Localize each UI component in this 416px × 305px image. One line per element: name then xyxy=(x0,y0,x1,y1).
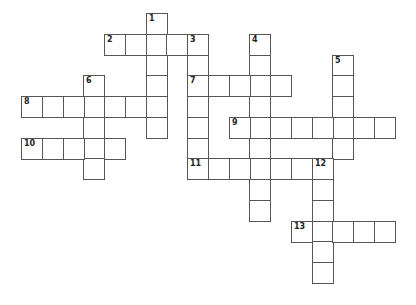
crossword-cell[interactable] xyxy=(312,200,334,222)
crossword-cell[interactable] xyxy=(249,158,271,180)
crossword-cell[interactable] xyxy=(353,117,375,139)
clue-number: 2 xyxy=(107,36,113,44)
crossword-cell[interactable] xyxy=(374,221,396,243)
crossword-cell[interactable]: 9 xyxy=(229,117,251,139)
crossword-cell[interactable] xyxy=(270,158,292,180)
crossword-cell[interactable] xyxy=(270,117,292,139)
crossword-cell[interactable] xyxy=(353,221,375,243)
crossword-cell[interactable] xyxy=(332,117,354,139)
crossword-cell[interactable]: 10 xyxy=(21,138,43,160)
crossword-cell[interactable] xyxy=(332,221,354,243)
crossword-cell[interactable] xyxy=(291,158,313,180)
crossword-cell[interactable] xyxy=(83,117,105,139)
clue-number: 8 xyxy=(24,98,30,106)
crossword-cell[interactable] xyxy=(229,75,251,97)
crossword-cell[interactable]: 1 xyxy=(146,13,168,35)
crossword-cell[interactable] xyxy=(291,117,313,139)
clue-number: 7 xyxy=(190,77,196,85)
crossword-cell[interactable] xyxy=(63,96,85,118)
crossword-cell[interactable] xyxy=(249,179,271,201)
crossword-cell[interactable] xyxy=(312,262,334,284)
crossword-cell[interactable] xyxy=(187,96,209,118)
crossword-cell[interactable] xyxy=(187,117,209,139)
crossword-cell[interactable] xyxy=(146,34,168,56)
crossword-cell[interactable] xyxy=(63,138,85,160)
crossword-cell[interactable] xyxy=(249,117,271,139)
crossword-cell[interactable] xyxy=(332,138,354,160)
crossword-cell[interactable] xyxy=(229,158,251,180)
crossword-cell[interactable]: 6 xyxy=(83,75,105,97)
crossword-cell[interactable] xyxy=(249,75,271,97)
clue-number: 13 xyxy=(294,223,305,231)
crossword-cell[interactable] xyxy=(146,55,168,77)
clue-number: 10 xyxy=(24,140,35,148)
crossword-cell[interactable] xyxy=(312,179,334,201)
clue-number: 11 xyxy=(190,160,201,168)
clue-number: 4 xyxy=(252,36,258,44)
crossword-cell[interactable] xyxy=(270,75,292,97)
crossword-cell[interactable] xyxy=(332,75,354,97)
crossword-cell[interactable] xyxy=(83,158,105,180)
crossword-cell[interactable] xyxy=(249,55,271,77)
crossword-cell[interactable]: 5 xyxy=(332,55,354,77)
crossword-cell[interactable]: 2 xyxy=(104,34,126,56)
crossword-cell[interactable] xyxy=(249,96,271,118)
crossword-cell[interactable] xyxy=(125,34,147,56)
clue-number: 3 xyxy=(190,36,196,44)
crossword-cell[interactable] xyxy=(208,158,230,180)
crossword-cell[interactable] xyxy=(187,55,209,77)
crossword-cell[interactable] xyxy=(249,200,271,222)
crossword-cell[interactable]: 7 xyxy=(187,75,209,97)
clue-number: 9 xyxy=(232,119,238,127)
clue-number: 6 xyxy=(86,77,92,85)
crossword-cell[interactable] xyxy=(312,221,334,243)
crossword-cell[interactable]: 8 xyxy=(21,96,43,118)
crossword-cell[interactable] xyxy=(249,138,271,160)
crossword-cell[interactable] xyxy=(146,117,168,139)
clue-number: 1 xyxy=(149,15,155,23)
crossword-grid: 12371145689101213 xyxy=(0,0,416,305)
crossword-cell[interactable] xyxy=(42,96,64,118)
crossword-cell[interactable]: 3 xyxy=(187,34,209,56)
crossword-cell[interactable] xyxy=(332,96,354,118)
crossword-cell[interactable] xyxy=(146,75,168,97)
crossword-cell[interactable] xyxy=(83,96,105,118)
crossword-cell[interactable] xyxy=(374,117,396,139)
crossword-cell[interactable] xyxy=(104,138,126,160)
crossword-cell[interactable] xyxy=(104,96,126,118)
crossword-cell[interactable] xyxy=(83,138,105,160)
crossword-cell[interactable] xyxy=(312,241,334,263)
crossword-cell[interactable]: 12 xyxy=(312,158,334,180)
crossword-cell[interactable]: 4 xyxy=(249,34,271,56)
crossword-cell[interactable]: 11 xyxy=(187,158,209,180)
crossword-cell[interactable] xyxy=(125,96,147,118)
crossword-cell[interactable] xyxy=(312,117,334,139)
crossword-cell[interactable] xyxy=(146,96,168,118)
crossword-cell[interactable] xyxy=(166,34,188,56)
crossword-cell[interactable]: 13 xyxy=(291,221,313,243)
crossword-cell[interactable] xyxy=(42,138,64,160)
clue-number: 12 xyxy=(315,160,326,168)
crossword-cell[interactable] xyxy=(208,75,230,97)
crossword-cell[interactable] xyxy=(187,138,209,160)
clue-number: 5 xyxy=(335,57,341,65)
